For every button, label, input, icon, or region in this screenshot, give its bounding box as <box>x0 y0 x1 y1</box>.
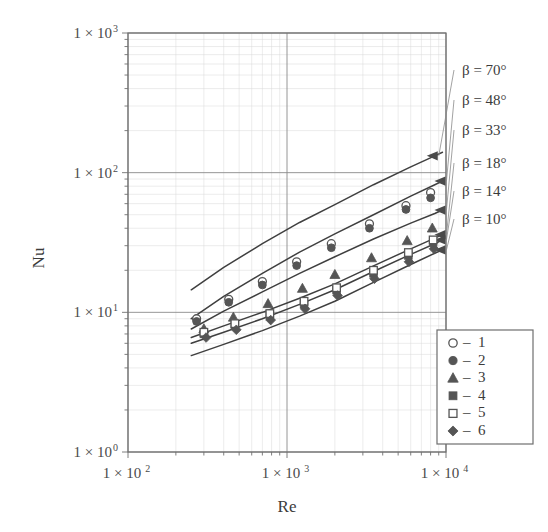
marker-filled-circle <box>449 357 457 365</box>
legend-dash-5: – <box>462 404 471 420</box>
nusselt-reynolds-chart: 1 × 1031 × 1021 × 1011 × 100 1 × 1021 × … <box>0 0 548 532</box>
marker-filled-circle <box>366 224 374 232</box>
y-tick-1: 1 × 100 <box>74 442 118 460</box>
marker-open-square <box>300 297 308 305</box>
y-tick-1000: 1 × 103 <box>74 23 118 41</box>
y-tick-10: 1 × 101 <box>74 302 118 320</box>
svg-text:1 × 10: 1 × 10 <box>262 465 300 481</box>
legend-text-3: 3 <box>478 369 486 385</box>
marker-filled-circle <box>327 244 335 252</box>
svg-text:1: 1 <box>113 302 118 313</box>
marker-filled-circle <box>293 262 301 270</box>
legend-text-5: 5 <box>478 404 486 420</box>
svg-text:3: 3 <box>113 23 118 34</box>
y-axis-title: Nu <box>29 247 48 268</box>
legend-dash-1: – <box>462 334 471 350</box>
svg-text:2: 2 <box>113 163 118 174</box>
legend-text-1: 1 <box>478 334 486 350</box>
legend-text-4: 4 <box>478 387 486 403</box>
marker-filled-circle <box>225 298 233 306</box>
svg-text:1 × 10: 1 × 10 <box>103 465 141 481</box>
marker-filled-square <box>449 392 457 400</box>
legend-dash-2: – <box>462 352 471 368</box>
marker-filled-circle <box>402 206 410 214</box>
beta-label-18: β = 18° <box>462 155 507 171</box>
marker-open-square <box>429 236 437 244</box>
beta-label-70: β = 70° <box>462 62 507 78</box>
marker-filled-circle <box>427 194 435 202</box>
svg-text:1 × 10: 1 × 10 <box>421 465 459 481</box>
svg-text:0: 0 <box>113 442 118 453</box>
beta-label-48: β = 48° <box>462 92 507 108</box>
svg-text:1 × 10: 1 × 10 <box>74 304 112 320</box>
marker-open-square <box>370 267 378 275</box>
beta-label-10: β = 10° <box>462 211 507 227</box>
svg-text:2: 2 <box>145 463 150 474</box>
marker-open-square <box>405 249 413 257</box>
marker-filled-circle <box>193 318 201 326</box>
beta-label-14: β = 14° <box>462 183 507 199</box>
svg-text:1 × 10: 1 × 10 <box>74 25 112 41</box>
marker-open-circle <box>449 339 457 347</box>
marker-filled-circle <box>259 281 267 289</box>
legend-dash-3: – <box>462 369 471 385</box>
legend: –1–2–3–4–5–6 <box>437 330 533 444</box>
beta-label-33: β = 33° <box>462 122 507 138</box>
svg-text:3: 3 <box>304 463 309 474</box>
svg-text:1 × 10: 1 × 10 <box>74 444 112 460</box>
svg-text:4: 4 <box>463 463 468 474</box>
legend-dash-6: – <box>462 422 471 438</box>
y-tick-100: 1 × 102 <box>74 163 118 181</box>
x-axis-title: Re <box>278 497 297 516</box>
svg-text:1 × 10: 1 × 10 <box>74 165 112 181</box>
figure-container: 1 × 1031 × 1021 × 1011 × 100 1 × 1021 × … <box>0 0 548 532</box>
legend-dash-4: – <box>462 387 471 403</box>
legend-text-6: 6 <box>478 422 486 438</box>
legend-text-2: 2 <box>478 352 486 368</box>
marker-open-square <box>333 284 341 292</box>
marker-open-square <box>449 409 457 417</box>
